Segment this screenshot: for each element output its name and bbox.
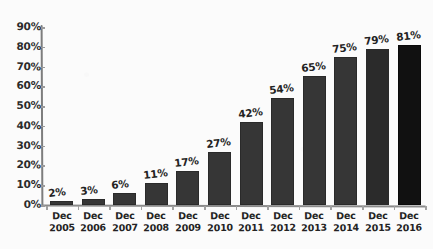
y-axis-tick-label: 30% [3, 138, 41, 150]
bar-chart: 0%10%20%30%40%50%60%70%80%90% 2%3%6%11%1… [0, 0, 433, 249]
bar-value-label: 81% [395, 28, 421, 43]
y-axis-tick-mark [41, 67, 45, 69]
bar[interactable] [398, 45, 421, 205]
x-axis-tick-mark [78, 206, 80, 210]
y-axis-tick-mark [41, 86, 45, 88]
x-axis-tick-label: Dec2016 [391, 210, 427, 234]
x-axis-label-month: Dec [273, 210, 293, 221]
bar[interactable] [271, 98, 294, 205]
x-axis-label-year: 2006 [75, 221, 111, 233]
bar-value-label: 3% [79, 183, 98, 197]
x-axis-label-month: Dec [304, 210, 324, 221]
bar-value-label: 42% [237, 105, 263, 120]
bar-value-label: 54% [269, 81, 295, 96]
x-axis-tick-label: Dec2014 [328, 210, 364, 234]
x-axis-label-month: Dec [241, 210, 261, 221]
x-axis-label-month: Dec [83, 210, 103, 221]
y-axis-tick-mark [41, 185, 45, 187]
y-axis-tick-label: 10% [3, 178, 41, 190]
bar-value-label: 75% [332, 40, 358, 55]
x-axis-label-month: Dec [399, 210, 419, 221]
y-axis-tick-mark [41, 126, 45, 128]
x-axis-label-year: 2014 [328, 221, 364, 233]
x-axis-tick-mark [330, 206, 332, 210]
bar[interactable] [145, 183, 168, 205]
x-axis-label-month: Dec [146, 210, 166, 221]
y-axis-tick-label: 50% [3, 99, 41, 112]
x-axis-label-year: 2016 [391, 221, 427, 233]
x-axis-tick-mark [299, 206, 301, 210]
y-axis-tick-label: 80% [3, 40, 41, 52]
y-axis-tick-mark [41, 165, 45, 167]
x-axis-tick-mark [172, 206, 174, 210]
bar[interactable] [366, 49, 389, 205]
plot-area: 0%10%20%30%40%50%60%70%80%90% 2%3%6%11%1… [0, 0, 433, 249]
bar-value-label: 17% [174, 155, 200, 170]
bar[interactable] [208, 152, 231, 205]
x-axis-label-month: Dec [336, 210, 356, 221]
x-axis-tick-mark [394, 206, 396, 210]
x-axis-tick-label: Dec2009 [170, 210, 206, 234]
bar[interactable] [82, 199, 105, 205]
bar-value-label: 6% [111, 177, 130, 191]
x-axis-label-year: 2009 [170, 221, 206, 233]
y-axis-tick-mark [41, 47, 45, 49]
x-axis-tick-mark [46, 206, 48, 210]
x-axis-tick-mark [425, 206, 427, 210]
bar-value-label: 79% [364, 32, 390, 47]
bar-value-label: 2% [48, 185, 67, 199]
bar[interactable] [240, 122, 263, 205]
y-axis-tick-label: 40% [3, 119, 41, 131]
y-axis-tick-label: 70% [3, 59, 41, 72]
y-axis-tick-label: 0% [3, 198, 41, 211]
bar-value-label: 11% [142, 166, 168, 181]
x-axis-label-year: 2011 [233, 221, 269, 233]
x-axis-tick-mark [109, 206, 111, 210]
bar[interactable] [176, 171, 199, 205]
x-axis-label-month: Dec [115, 210, 135, 221]
x-axis-tick-mark [236, 206, 238, 210]
y-axis-tick-label: 20% [3, 158, 41, 171]
y-axis-tick-label: 60% [3, 79, 41, 91]
x-axis-label-month: Dec [178, 210, 198, 221]
x-axis-tick-mark [362, 206, 364, 210]
x-axis-tick-mark [141, 206, 143, 210]
x-axis-tick-mark [204, 206, 206, 210]
x-axis-label-month: Dec [368, 210, 388, 221]
x-axis-label-month: Dec [210, 210, 230, 221]
y-axis-tick-mark [41, 27, 45, 29]
y-axis-tick-mark [41, 146, 45, 148]
bar[interactable] [334, 57, 357, 205]
bar[interactable] [50, 201, 73, 205]
x-axis-tick-mark [267, 206, 269, 210]
y-axis-tick-label: 90% [3, 20, 41, 32]
x-axis-label-month: Dec [52, 210, 72, 221]
y-axis-tick-mark [41, 205, 45, 207]
bar[interactable] [303, 76, 326, 205]
bar-value-label: 65% [300, 60, 326, 75]
y-axis-tick-mark [41, 106, 45, 108]
x-axis-line [41, 205, 426, 208]
bar-value-label: 27% [206, 135, 232, 150]
y-axis-line [41, 25, 44, 206]
bar[interactable] [113, 193, 136, 205]
